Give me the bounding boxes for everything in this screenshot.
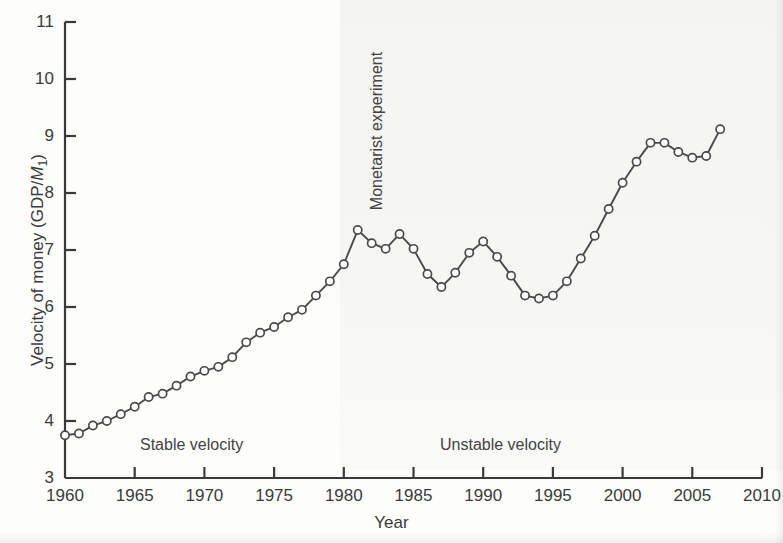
data-point-marker	[382, 245, 390, 253]
y-tick-label: 3	[8, 468, 54, 488]
annotation-stable-velocity: Stable velocity	[140, 436, 243, 454]
x-tick-label: 1960	[46, 486, 84, 506]
data-point-marker	[312, 292, 320, 300]
data-point-marker	[61, 431, 69, 439]
data-point-marker	[465, 249, 473, 257]
x-tick-label: 1980	[325, 486, 363, 506]
data-point-marker	[340, 260, 348, 268]
y-tick-label: 11	[8, 12, 54, 32]
data-point-marker	[186, 372, 194, 380]
data-point-marker	[145, 393, 153, 401]
x-tick-label: 2005	[673, 486, 711, 506]
y-axis-title-suffix: )	[28, 154, 47, 160]
data-point-marker	[493, 253, 501, 261]
data-point-marker	[591, 232, 599, 240]
data-point-marker	[702, 152, 710, 160]
data-point-marker	[131, 403, 139, 411]
data-point-marker	[298, 306, 306, 314]
annotation-unstable-velocity: Unstable velocity	[440, 436, 561, 454]
data-point-marker	[716, 125, 724, 133]
y-axis-ticks	[65, 22, 76, 421]
data-point-marker	[228, 353, 236, 361]
data-point-marker	[535, 294, 543, 302]
data-point-marker	[172, 382, 180, 390]
data-point-marker	[646, 139, 654, 147]
data-point-marker	[368, 239, 376, 247]
data-point-marker	[563, 277, 571, 285]
data-point-marker	[284, 313, 292, 321]
data-point-marker	[242, 338, 250, 346]
annotation-monetarist-experiment: Monetarist experiment	[368, 26, 386, 236]
data-point-marker	[354, 226, 362, 234]
velocity-series-markers	[61, 125, 724, 439]
data-point-marker	[423, 270, 431, 278]
x-tick-label: 1975	[255, 486, 293, 506]
data-point-marker	[451, 269, 459, 277]
data-point-marker	[605, 205, 613, 213]
data-point-marker	[270, 323, 278, 331]
data-point-marker	[200, 367, 208, 375]
y-axis-title: Velocity of money (GDP/M1)	[28, 130, 48, 390]
data-point-marker	[117, 410, 125, 418]
data-point-marker	[214, 363, 222, 371]
data-point-marker	[479, 237, 487, 245]
data-point-marker	[674, 148, 682, 156]
data-point-marker	[507, 272, 515, 280]
data-point-marker	[577, 254, 585, 262]
data-point-marker	[395, 230, 403, 238]
x-tick-label: 1995	[534, 486, 572, 506]
x-tick-label: 1965	[116, 486, 154, 506]
y-tick-label: 4	[8, 411, 54, 431]
data-point-marker	[75, 429, 83, 437]
data-point-marker	[409, 245, 417, 253]
data-point-marker	[89, 421, 97, 429]
x-tick-label: 1985	[395, 486, 433, 506]
data-point-marker	[326, 277, 334, 285]
data-point-marker	[632, 158, 640, 166]
x-tick-label: 2010	[743, 486, 781, 506]
x-tick-label: 1970	[185, 486, 223, 506]
x-tick-label: 2000	[604, 486, 642, 506]
velocity-of-money-line-chart	[0, 0, 783, 543]
data-point-marker	[103, 417, 111, 425]
data-point-marker	[256, 329, 264, 337]
x-axis-title: Year	[0, 513, 783, 533]
x-tick-label: 1990	[464, 486, 502, 506]
data-point-marker	[619, 179, 627, 187]
y-axis-title-italic: M	[28, 167, 47, 181]
y-tick-label: 10	[8, 69, 54, 89]
data-point-marker	[660, 139, 668, 147]
data-point-marker	[688, 154, 696, 162]
data-point-marker	[521, 292, 529, 300]
data-point-marker	[158, 390, 166, 398]
chart-figure: 34567891011 1960196519701975198019851990…	[0, 0, 783, 543]
y-axis-title-subscript: 1	[36, 160, 50, 167]
data-point-marker	[437, 283, 445, 291]
y-axis-title-prefix: Velocity of money (GDP/	[28, 181, 47, 366]
data-point-marker	[549, 292, 557, 300]
x-axis-ticks	[135, 467, 762, 478]
